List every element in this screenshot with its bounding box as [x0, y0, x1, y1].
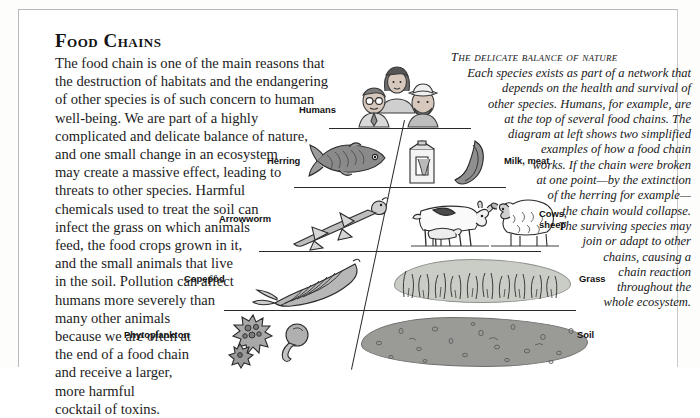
label-copepod: Copepod — [184, 274, 225, 285]
left-body-line: cocktail of toxins. — [55, 400, 281, 418]
cow-illustration — [409, 195, 491, 249]
grass-blades — [394, 257, 570, 303]
phytoplankton-illustration — [219, 315, 329, 369]
sidebar-heading: The delicate balance of nature — [451, 50, 691, 65]
tier-rule-3 — [259, 251, 541, 252]
label-soil: Soil — [577, 330, 594, 341]
humans-illustration — [349, 63, 454, 129]
meat-illustration — [447, 137, 489, 185]
food-chain-pyramid: Humans — [189, 65, 609, 365]
copepod-illustration — [251, 258, 361, 308]
herring-illustration — [309, 137, 389, 183]
label-cows-sheep-line2: sheep — [539, 219, 566, 230]
label-cows-sheep: Cows, sheep — [539, 209, 567, 230]
arrowworm-illustration — [284, 195, 389, 249]
tier-rule-4 — [224, 310, 576, 311]
content-frame: Food Chains The food chain is one of the… — [18, 9, 678, 367]
label-cows-sheep-line1: Cows, — [539, 208, 567, 219]
soil-particles — [361, 317, 587, 366]
left-body-line: more harmful — [55, 382, 281, 400]
tier-rule-2 — [294, 187, 506, 188]
label-phytoplankton: Phytoplankton — [124, 330, 189, 341]
label-milk-meat: Milk, meat — [504, 156, 549, 167]
label-arrowworm: Arrowworm — [219, 214, 271, 225]
label-humans: Humans — [299, 105, 336, 116]
page-title: Food Chains — [55, 30, 161, 52]
label-herring: Herring — [267, 156, 300, 167]
milk-carton-illustration — [404, 137, 444, 185]
label-grass: Grass — [579, 274, 606, 285]
